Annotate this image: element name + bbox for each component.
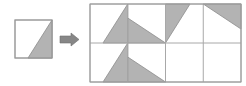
figure-canvas [0, 0, 246, 86]
result-grid-group [90, 4, 241, 82]
source-tile-group [15, 20, 52, 58]
figure-root [0, 0, 246, 86]
